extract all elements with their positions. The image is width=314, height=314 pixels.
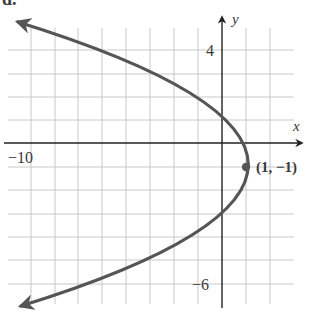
- panel-label: d.: [2, 0, 17, 9]
- vertex-point: [242, 163, 250, 171]
- tick-label-y-top: 4: [206, 42, 214, 59]
- tick-label-x-min: −10: [8, 149, 33, 166]
- y-axis-label: y: [230, 11, 239, 27]
- tick-label-y-bottom: −6: [192, 276, 209, 293]
- grid: [8, 28, 294, 304]
- x-axis-label: x: [292, 118, 300, 134]
- parabola-curve: [18, 22, 248, 306]
- parabola-chart: d. x y −10 4 −6 (1, −1): [0, 0, 314, 314]
- vertex-label: (1, −1): [256, 159, 297, 176]
